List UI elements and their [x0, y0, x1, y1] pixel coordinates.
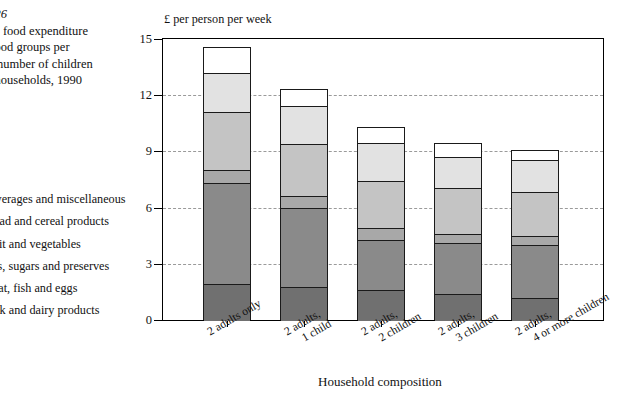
bar-segment[interactable] — [435, 189, 481, 235]
legend-item-bread-cereal: Bread and cereal products — [0, 210, 182, 232]
figure-caption: re 2.26 ehold food expenditure ain food … — [0, 6, 162, 89]
bar-segment[interactable] — [435, 235, 481, 244]
bar-segment[interactable] — [204, 171, 250, 184]
y-tick-3 — [154, 264, 162, 265]
bar-segment[interactable] — [435, 158, 481, 189]
bar-segment[interactable] — [512, 151, 558, 161]
figure-number: re 2.26 — [0, 6, 162, 23]
plot-top-border — [162, 38, 604, 39]
bar-5[interactable] — [511, 150, 559, 320]
plot-area: 03691215 — [162, 38, 604, 321]
bar-segment[interactable] — [281, 145, 327, 197]
y-tick-label-12: 12 — [116, 89, 152, 101]
plot-right-border — [603, 38, 604, 321]
bar-3[interactable] — [357, 127, 405, 320]
y-axis-line — [162, 38, 163, 321]
caption-line-3: n by number of children — [0, 56, 162, 73]
bar-segment[interactable] — [358, 241, 404, 291]
bar-segment[interactable] — [358, 182, 404, 229]
figure-root: re 2.26 ehold food expenditure ain food … — [0, 0, 628, 406]
bar-segment[interactable] — [204, 74, 250, 113]
bar-segment[interactable] — [512, 246, 558, 298]
bar-segment[interactable] — [204, 184, 250, 285]
bar-segment[interactable] — [512, 161, 558, 193]
x-axis-title: Household composition — [318, 374, 442, 390]
bar-segment[interactable] — [281, 107, 327, 144]
bar-2[interactable] — [280, 89, 328, 320]
y-tick-label-9: 9 — [116, 145, 152, 157]
bar-segment[interactable] — [358, 144, 404, 182]
bar-segment[interactable] — [281, 209, 327, 289]
y-tick-6 — [154, 208, 162, 209]
y-tick-label-0: 0 — [116, 314, 152, 326]
y-tick-9 — [154, 151, 162, 152]
legend-item-fats-sugars: Fats, sugars and preserves — [0, 255, 182, 277]
legend-item-meat-fish-eggs: Meat, fish and eggs — [0, 277, 182, 299]
bar-segment[interactable] — [358, 128, 404, 144]
y-tick-15 — [154, 39, 162, 40]
bar-segment[interactable] — [435, 144, 481, 158]
legend-item-fruit-vegetables: Fruit and vegetables — [0, 233, 182, 255]
y-axis-title: £ per person per week — [164, 12, 272, 27]
y-tick-label-15: 15 — [116, 33, 152, 45]
bar-segment[interactable] — [512, 237, 558, 246]
bar-1[interactable] — [203, 47, 251, 321]
bar-segment[interactable] — [281, 197, 327, 208]
y-tick-12 — [154, 95, 162, 96]
legend-item-milk-dairy: Milk and dairy products — [0, 299, 182, 321]
y-tick-label-6: 6 — [116, 202, 152, 214]
y-tick-label-3: 3 — [116, 258, 152, 270]
bar-4[interactable] — [434, 143, 482, 320]
bar-segment[interactable] — [435, 244, 481, 295]
bar-segment[interactable] — [281, 90, 327, 108]
y-tick-0 — [154, 320, 162, 321]
bar-segment[interactable] — [358, 229, 404, 241]
bar-segment[interactable] — [512, 193, 558, 237]
bar-segment[interactable] — [204, 48, 250, 74]
bar-segment[interactable] — [204, 113, 250, 171]
caption-line-4: dult households, 1990 — [0, 72, 162, 89]
